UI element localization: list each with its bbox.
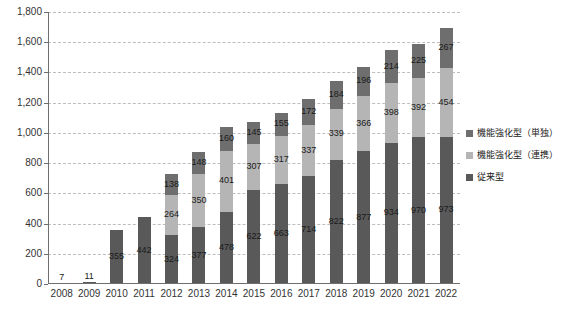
y-axis-tick-label: 1,200 [17, 98, 42, 108]
bar-value-label: 877 [356, 213, 371, 222]
bar-stack[interactable]: 267454973 [440, 28, 453, 284]
bar-stack[interactable]: 196366877 [357, 67, 370, 284]
bar-column[interactable]: 225392970 [405, 12, 432, 284]
bar-segment-top[interactable]: 184 [330, 81, 343, 109]
bar-segment-bottom[interactable]: 663 [275, 184, 288, 284]
x-axis-tick-label: 2017 [295, 288, 322, 300]
bar-column[interactable]: 145307622 [240, 12, 267, 284]
bar-column[interactable]: 172337714 [295, 12, 322, 284]
bar-value-label: 366 [356, 119, 371, 128]
bar-segment-top[interactable]: 172 [302, 99, 315, 125]
legend-item-2[interactable]: 従来型 [466, 172, 561, 183]
bar-segment-mid[interactable]: 392 [412, 78, 425, 137]
bar-column[interactable]: 184339822 [323, 12, 350, 284]
bar-column[interactable]: 267454973 [433, 12, 460, 284]
x-axis-tick-label: 2011 [131, 288, 158, 300]
bar-stack[interactable]: 160401478 [220, 127, 233, 284]
bar-segment-mid[interactable]: 317 [275, 136, 288, 184]
bar-segment-bottom[interactable]: 622 [247, 190, 260, 284]
bar-segment-bottom[interactable]: 877 [357, 151, 370, 284]
bar-column[interactable]: 196366877 [350, 12, 377, 284]
bar-value-label: 214 [384, 62, 399, 71]
bar-column[interactable]: 7 [48, 12, 75, 284]
y-axis-tick-mark [44, 284, 48, 285]
bar-stack[interactable]: 184339822 [330, 81, 343, 284]
x-axis-tick-label: 2015 [240, 288, 267, 300]
bar-segment-mid[interactable]: 366 [357, 96, 370, 151]
bar-stack[interactable]: 138264324 [165, 174, 178, 284]
legend-item-0[interactable]: 機能強化型（単独） [466, 128, 561, 139]
bar-segment-mid[interactable]: 401 [220, 151, 233, 212]
bar-value-label: 138 [164, 180, 179, 189]
bar-segment-mid[interactable]: 454 [440, 68, 453, 137]
y-axis-line [48, 12, 49, 284]
bar-stack[interactable]: 225392970 [412, 44, 425, 284]
bar-stack[interactable]: 172337714 [302, 99, 315, 284]
x-axis-tick-label: 2016 [268, 288, 295, 300]
bar-segment-top[interactable]: 225 [412, 44, 425, 78]
bar-value-label: 454 [439, 98, 454, 107]
bar-column[interactable]: 355 [103, 12, 130, 284]
x-axis-tick-label: 2014 [213, 288, 240, 300]
bar-segment-bottom[interactable]: 714 [302, 176, 315, 284]
bar-segment-bottom[interactable]: 973 [440, 137, 453, 284]
legend-label: 機能強化型（連携） [477, 150, 558, 161]
bar-segment-bottom[interactable]: 478 [220, 212, 233, 284]
x-axis-tick-label: 2009 [76, 288, 103, 300]
bar-segment-top[interactable]: 160 [220, 127, 233, 151]
bar-segment-mid[interactable]: 398 [385, 83, 398, 143]
y-axis-tick-label: 1,000 [17, 128, 42, 138]
bar-stack[interactable]: 148350377 [192, 152, 205, 284]
bar-segment-top[interactable]: 214 [385, 50, 398, 82]
bar-column[interactable]: 11 [76, 12, 103, 284]
x-axis-tick-label: 2013 [185, 288, 212, 300]
bar-stack[interactable]: 145307622 [247, 122, 260, 284]
bar-segment-bottom[interactable]: 934 [385, 143, 398, 284]
bar-column[interactable]: 214398934 [378, 12, 405, 284]
bar-segment-mid[interactable]: 307 [247, 144, 260, 190]
y-axis-tick-label: 0 [36, 279, 42, 289]
bar-segment-bottom[interactable]: 377 [192, 227, 205, 284]
bar-value-label: 155 [274, 119, 289, 128]
bar-value-label: 264 [164, 210, 179, 219]
y-axis-tick-label: 200 [25, 249, 42, 259]
bar-value-label: 350 [191, 196, 206, 205]
bar-segment-top[interactable]: 138 [165, 174, 178, 195]
bar-column[interactable]: 155317663 [268, 12, 295, 284]
bar-segment-top[interactable]: 155 [275, 113, 288, 136]
bar-segment-mid[interactable]: 339 [330, 109, 343, 160]
bar-column[interactable]: 138264324 [158, 12, 185, 284]
bar-column[interactable]: 442 [131, 12, 158, 284]
bar-segment-top[interactable]: 267 [440, 28, 453, 68]
bar-column[interactable]: 160401478 [213, 12, 240, 284]
bar-segment-bottom[interactable]: 355 [110, 230, 123, 284]
bar-value-label: 401 [219, 176, 234, 185]
legend-swatch-icon [466, 130, 473, 137]
bar-value-label: 324 [164, 255, 179, 264]
bar-column[interactable]: 148350377 [185, 12, 212, 284]
bar-segment-top[interactable]: 196 [357, 67, 370, 97]
bar-stack[interactable]: 214398934 [385, 50, 398, 284]
legend-swatch-icon [466, 152, 473, 159]
bar-segment-top[interactable]: 148 [192, 152, 205, 174]
bar-stack[interactable]: 355 [110, 230, 123, 284]
bar-value-label: 7 [59, 273, 64, 282]
bar-value-label: 622 [246, 232, 261, 241]
bar-value-label: 145 [246, 128, 261, 137]
bar-segment-top[interactable]: 145 [247, 122, 260, 144]
bar-segment-bottom[interactable]: 324 [165, 235, 178, 284]
bar-stack[interactable]: 155317663 [275, 113, 288, 284]
bar-segment-mid[interactable]: 264 [165, 195, 178, 235]
bar-segment-bottom[interactable]: 442 [138, 217, 151, 284]
bars-layer: 7113554421382643241483503771604014781453… [48, 12, 460, 284]
bar-stack[interactable]: 442 [138, 217, 151, 284]
y-axis-tick-label: 400 [25, 219, 42, 229]
bar-segment-mid[interactable]: 350 [192, 174, 205, 227]
bar-segment-bottom[interactable]: 970 [412, 137, 425, 284]
bar-segment-mid[interactable]: 337 [302, 125, 315, 176]
bar-value-label: 442 [137, 246, 152, 255]
bar-segment-bottom[interactable]: 822 [330, 160, 343, 284]
y-axis-tick-label: 1,400 [17, 67, 42, 77]
x-axis-tick-label: 2008 [48, 288, 75, 300]
legend-item-1[interactable]: 機能強化型（連携） [466, 150, 561, 161]
